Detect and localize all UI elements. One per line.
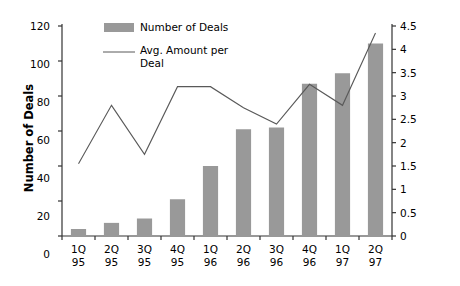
bar-4 <box>203 166 218 236</box>
x-axis-label-year: 97 <box>354 256 398 269</box>
y-axis-right-tick-label: 0.5 <box>400 207 436 219</box>
y-axis-right-tick-label: 1.5 <box>400 160 436 172</box>
y-axis-left-tick-label: 80 <box>14 96 50 108</box>
chart-container: Number of Deals ECU in Millions 120 100 … <box>0 0 460 286</box>
y-axis-right-tick-label: 2 <box>400 137 436 149</box>
legend-label-number-of-deals: Number of Deals <box>140 21 260 34</box>
y-axis-right-tick-label: 3 <box>400 90 436 102</box>
bar-5 <box>236 129 251 236</box>
bar-2 <box>137 219 152 237</box>
y-axis-left-tick-label: 20 <box>14 210 50 222</box>
y-axis-right-tick-label: 3.5 <box>400 67 436 79</box>
x-axis-label-9: 2Q97 <box>354 243 398 269</box>
y-axis-right-tick-label: 0 <box>400 230 436 242</box>
bar-8 <box>335 73 350 236</box>
bar-9 <box>368 44 383 237</box>
bar-7 <box>302 84 317 236</box>
legend-bar-swatch-icon <box>104 23 134 32</box>
y-axis-right-tick-label: 1 <box>400 183 436 195</box>
bar-3 <box>170 199 185 236</box>
y-axis-right-tick-label: 2.5 <box>400 113 436 125</box>
x-axis-label-quarter: 2Q <box>354 243 398 256</box>
bar-6 <box>269 128 284 237</box>
legend-label-avg-amount-line1: Avg. Amount per <box>140 44 260 57</box>
legend-label-avg-amount-line2: Deal <box>140 57 260 70</box>
y-axis-right-tick-label: 4 <box>400 43 436 55</box>
bar-0 <box>71 229 86 236</box>
y-axis-left-tick-label: 120 <box>14 20 50 32</box>
y-axis-left-tick-label: 0 <box>14 248 50 260</box>
bar-1 <box>104 223 119 236</box>
y-axis-right-tick-label: 4.5 <box>400 20 436 32</box>
y-axis-left-tick-label: 100 <box>14 58 50 70</box>
y-axis-left-tick-label: 60 <box>14 134 50 146</box>
y-axis-left-tick-label: 40 <box>14 172 50 184</box>
legend-line-swatch-icon <box>103 50 135 54</box>
